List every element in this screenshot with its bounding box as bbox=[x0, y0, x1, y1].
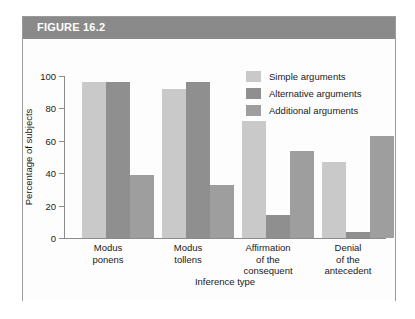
y-axis-tick bbox=[59, 238, 64, 239]
x-axis-category-label: Modustollens bbox=[148, 242, 228, 265]
x-axis-category-label-line: of the bbox=[228, 254, 308, 266]
x-axis-category-label: Modusponens bbox=[68, 242, 148, 265]
x-axis-category-label-line: consequent bbox=[228, 265, 308, 277]
y-axis-tick-label: 0 bbox=[51, 233, 56, 244]
figure-number-label: FIGURE 16.2 bbox=[37, 21, 105, 33]
x-axis-category-label-line: Modus bbox=[148, 242, 228, 254]
bar-group: Modustollens bbox=[148, 76, 228, 238]
bar bbox=[242, 121, 266, 238]
figure-header-bar: FIGURE 16.2 bbox=[23, 17, 395, 39]
bar bbox=[322, 162, 346, 238]
bar-group: Affirmationof theconsequent bbox=[228, 76, 308, 238]
bar bbox=[186, 82, 210, 238]
y-axis-tick bbox=[59, 76, 64, 77]
y-axis-tick-label: 100 bbox=[40, 71, 56, 82]
y-axis-line bbox=[64, 76, 65, 238]
bar bbox=[346, 232, 370, 238]
y-axis-tick-label: 80 bbox=[45, 103, 56, 114]
x-axis-title: Inference type bbox=[64, 276, 386, 287]
x-axis-category-label-line: ponens bbox=[68, 254, 148, 266]
y-axis-tick bbox=[59, 206, 64, 207]
x-axis-category-label: Denialof theantecedent bbox=[308, 242, 388, 277]
y-axis-tick-label: 40 bbox=[45, 168, 56, 179]
y-axis-tick-label: 20 bbox=[45, 200, 56, 211]
figure-body: Simple argumentsAlternative argumentsAdd… bbox=[23, 39, 395, 301]
bar bbox=[370, 136, 394, 238]
x-axis-category-label: Affirmationof theconsequent bbox=[228, 242, 308, 277]
x-axis-category-label-line: tollens bbox=[148, 254, 228, 266]
y-axis-tick bbox=[59, 173, 64, 174]
x-axis-category-label-line: Denial bbox=[308, 242, 388, 254]
x-axis-category-label-line: Affirmation bbox=[228, 242, 308, 254]
plot-area: Percentage of subjects ModusponensModust… bbox=[64, 76, 386, 238]
x-axis-category-label-line: of the bbox=[308, 254, 388, 266]
bar bbox=[82, 82, 106, 238]
bar bbox=[266, 215, 290, 238]
x-axis-line bbox=[64, 238, 386, 239]
y-axis-tick bbox=[59, 141, 64, 142]
y-axis-title: Percentage of subjects bbox=[23, 109, 34, 206]
bar bbox=[162, 89, 186, 238]
figure-frame: FIGURE 16.2 Simple argumentsAlternative … bbox=[22, 16, 396, 301]
x-axis-category-label-line: Modus bbox=[68, 242, 148, 254]
bar-group: Modusponens bbox=[68, 76, 148, 238]
y-axis-tick bbox=[59, 108, 64, 109]
x-axis-category-label-line: antecedent bbox=[308, 265, 388, 277]
bar bbox=[106, 82, 130, 238]
bar-group: Denialof theantecedent bbox=[308, 76, 388, 238]
y-axis-tick-label: 60 bbox=[45, 135, 56, 146]
